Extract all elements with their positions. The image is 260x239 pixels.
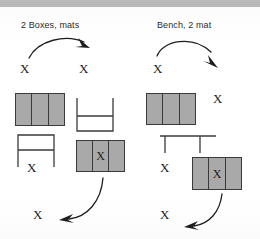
left-arrow-top — [26, 34, 96, 60]
left-x-under-bench: X — [27, 161, 36, 174]
box-cell — [32, 94, 48, 125]
panel-title-right: Bench, 2 mat — [157, 20, 211, 30]
box-cell — [77, 141, 93, 171]
left-box-lower: X — [76, 140, 125, 172]
box-cell — [163, 94, 179, 124]
scan-edge-band — [0, 0, 260, 7]
box-cell — [226, 158, 241, 189]
right-arrow-bottom — [180, 192, 230, 234]
box-cell — [193, 158, 209, 189]
box-cell — [109, 141, 124, 171]
right-x-under-bench: X — [160, 161, 169, 174]
diagram-canvas: 2 Boxes, mats X X X X — [0, 0, 260, 239]
right-box-lower: X — [192, 157, 242, 190]
right-x-in-box: X — [213, 168, 222, 180]
box-cell — [147, 94, 163, 124]
right-bench-wide — [159, 134, 219, 158]
box-cell — [16, 94, 32, 125]
left-x-start: X — [20, 62, 29, 75]
box-cell-marked: X — [93, 141, 109, 171]
left-x-in-box: X — [96, 150, 105, 162]
left-bench-inverted — [75, 98, 115, 134]
box-cell — [49, 94, 64, 125]
right-x-second: X — [213, 92, 222, 105]
right-arrow-top — [155, 36, 230, 72]
right-x-start: X — [153, 62, 162, 75]
left-box-top — [15, 93, 65, 126]
box-cell-marked: X — [209, 158, 225, 189]
right-box-top — [146, 93, 196, 125]
left-bench — [17, 133, 57, 169]
box-cell — [180, 94, 195, 124]
right-x-finish: X — [160, 208, 169, 221]
panel-title-left: 2 Boxes, mats — [21, 20, 79, 30]
left-x-second: X — [79, 62, 88, 75]
left-x-finish: X — [33, 208, 42, 221]
left-arrow-bottom — [53, 176, 108, 226]
